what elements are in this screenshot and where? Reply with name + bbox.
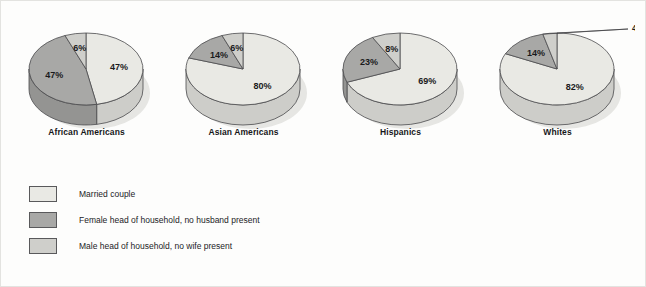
pie-chart-figure: 47%47%6%African Americans80%14%6%Asian A… <box>0 0 646 287</box>
slice-label-0: 47% <box>110 62 128 72</box>
pie-svg-2: 69%23%8% <box>323 9 478 137</box>
legend-item-2[interactable]: Male head of household, no wife present <box>29 233 449 259</box>
legend-swatch-1 <box>29 212 57 228</box>
legend-item-1[interactable]: Female head of household, no husband pre… <box>29 207 449 233</box>
pie-svg-1: 80%14%6% <box>166 9 321 137</box>
slice-label-2: 6% <box>73 43 86 53</box>
slice-label-1: 47% <box>45 70 63 80</box>
slice-label-0: 80% <box>253 81 271 91</box>
legend-item-0[interactable]: Married couple <box>29 181 449 207</box>
legend-swatch-2 <box>29 238 57 254</box>
pie-chart-0: 47%47%6%African Americans <box>9 9 164 149</box>
pie-svg-0: 47%47%6% <box>9 9 164 137</box>
chart-legend: Married coupleFemale head of household, … <box>29 181 449 259</box>
pie-charts-row: 47%47%6%African Americans80%14%6%Asian A… <box>1 9 646 149</box>
slice-label-0: 69% <box>418 76 436 86</box>
pie-svg-3: 82%14%4% <box>480 9 635 137</box>
legend-swatch-0 <box>29 186 57 202</box>
slice-label-1: 23% <box>360 57 378 67</box>
pie-chart-2: 69%23%8%Hispanics <box>323 9 478 149</box>
legend-label-1: Female head of household, no husband pre… <box>79 215 260 225</box>
legend-label-2: Male head of household, no wife present <box>79 241 232 251</box>
slice-label-0: 82% <box>566 82 584 92</box>
leader-line-1 <box>557 29 628 33</box>
pie-caption-0: African Americans <box>9 127 164 137</box>
slice-label-1: 14% <box>210 50 228 60</box>
slice-label-2: 8% <box>385 44 398 54</box>
pie-caption-2: Hispanics <box>323 127 478 137</box>
slice-label-2: 6% <box>230 43 243 53</box>
slice-label-2: 4% <box>632 23 635 33</box>
pie-chart-3: 82%14%4%Whites <box>480 9 635 149</box>
pie-caption-1: Asian Americans <box>166 127 321 137</box>
pie-caption-3: Whites <box>480 127 635 137</box>
pie-chart-1: 80%14%6%Asian Americans <box>166 9 321 149</box>
slice-label-1: 14% <box>527 48 545 58</box>
legend-label-0: Married couple <box>79 189 135 199</box>
